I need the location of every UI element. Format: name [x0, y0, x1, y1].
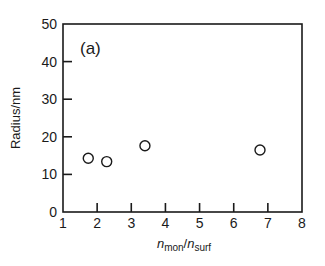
data-point	[83, 153, 93, 163]
y-axis-ticks: 01020304050	[41, 16, 72, 220]
data-point	[255, 145, 265, 155]
scatter-chart: 01020304050 12345678 (a) Radius/nm nmon/…	[0, 0, 325, 266]
y-tick-label: 30	[41, 91, 57, 107]
y-tick-label: 0	[49, 204, 57, 220]
y-axis-title: Radius/nm	[8, 87, 23, 149]
x-tick-label: 2	[93, 215, 101, 231]
x-title-sub2: surf	[194, 242, 211, 253]
y-tick-label: 20	[41, 129, 57, 145]
x-axis-title: nmon/nsurf	[157, 236, 211, 253]
x-tick-label: 8	[298, 215, 306, 231]
x-tick-label: 1	[59, 215, 67, 231]
panel-label: (a)	[80, 39, 101, 58]
x-axis-ticks: 12345678	[59, 203, 306, 231]
y-tick-label: 40	[41, 54, 57, 70]
x-tick-label: 7	[264, 215, 272, 231]
x-title-sub1: mon	[164, 242, 183, 253]
x-tick-label: 3	[127, 215, 135, 231]
x-title-n1: n	[157, 236, 164, 251]
y-tick-label: 50	[41, 16, 57, 32]
x-tick-label: 4	[162, 215, 170, 231]
data-points	[83, 141, 265, 167]
y-tick-label: 10	[41, 166, 57, 182]
x-title-n2: n	[187, 236, 194, 251]
data-point	[140, 141, 150, 151]
data-point	[102, 157, 112, 167]
x-tick-label: 5	[196, 215, 204, 231]
x-tick-label: 6	[230, 215, 238, 231]
